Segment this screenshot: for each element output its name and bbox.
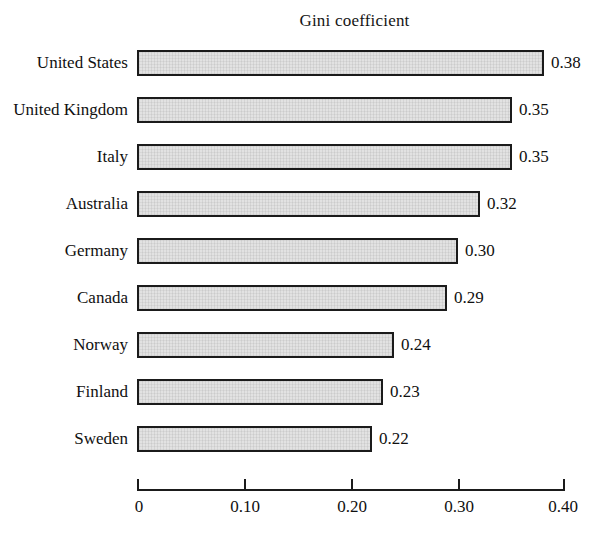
value-label-united-states: 0.38 <box>551 53 581 73</box>
plot-area: United States 0.38 United Kingdom 0.35 I… <box>0 0 607 551</box>
value-label-canada: 0.29 <box>454 288 484 308</box>
category-label-united-states: United States <box>37 53 128 73</box>
bar-texture <box>139 99 510 121</box>
bar-texture <box>139 287 445 309</box>
category-label-finland: Finland <box>76 382 128 402</box>
category-label-germany: Germany <box>65 241 128 261</box>
bar-texture <box>139 52 542 74</box>
value-label-italy: 0.35 <box>519 147 549 167</box>
bar-row: Canada 0.29 <box>0 285 607 311</box>
bar-texture <box>139 381 381 403</box>
category-label-canada: Canada <box>77 288 128 308</box>
category-label-italy: Italy <box>97 147 128 167</box>
category-label-united-kingdom: United Kingdom <box>13 100 128 120</box>
bar-row: United Kingdom 0.35 <box>0 97 607 123</box>
value-label-sweden: 0.22 <box>379 429 409 449</box>
value-label-germany: 0.30 <box>465 241 495 261</box>
bar-row: Sweden 0.22 <box>0 426 607 452</box>
bar-australia <box>137 191 480 217</box>
bar-texture <box>139 146 510 168</box>
bar-norway <box>137 332 394 358</box>
value-label-united-kingdom: 0.35 <box>519 100 549 120</box>
bar-germany <box>137 238 458 264</box>
value-label-finland: 0.23 <box>390 382 420 402</box>
category-label-australia: Australia <box>66 194 128 214</box>
bar-row: Italy 0.35 <box>0 144 607 170</box>
bar-row: Germany 0.30 <box>0 238 607 264</box>
bar-row: United States 0.38 <box>0 50 607 76</box>
gini-coefficient-bar-chart: Gini coefficient United States 0.38 Unit… <box>0 0 607 551</box>
bar-row: Norway 0.24 <box>0 332 607 358</box>
category-label-norway: Norway <box>73 335 128 355</box>
bar-row: Finland 0.23 <box>0 379 607 405</box>
bar-united-kingdom <box>137 97 512 123</box>
value-label-australia: 0.32 <box>487 194 517 214</box>
bar-sweden <box>137 426 372 452</box>
bar-row: Australia 0.32 <box>0 191 607 217</box>
category-label-sweden: Sweden <box>74 429 128 449</box>
bar-texture <box>139 428 370 450</box>
value-label-norway: 0.24 <box>401 335 431 355</box>
bar-italy <box>137 144 512 170</box>
bar-finland <box>137 379 383 405</box>
bar-texture <box>139 334 392 356</box>
bar-united-states <box>137 50 544 76</box>
bar-texture <box>139 240 456 262</box>
bar-texture <box>139 193 478 215</box>
bar-canada <box>137 285 447 311</box>
